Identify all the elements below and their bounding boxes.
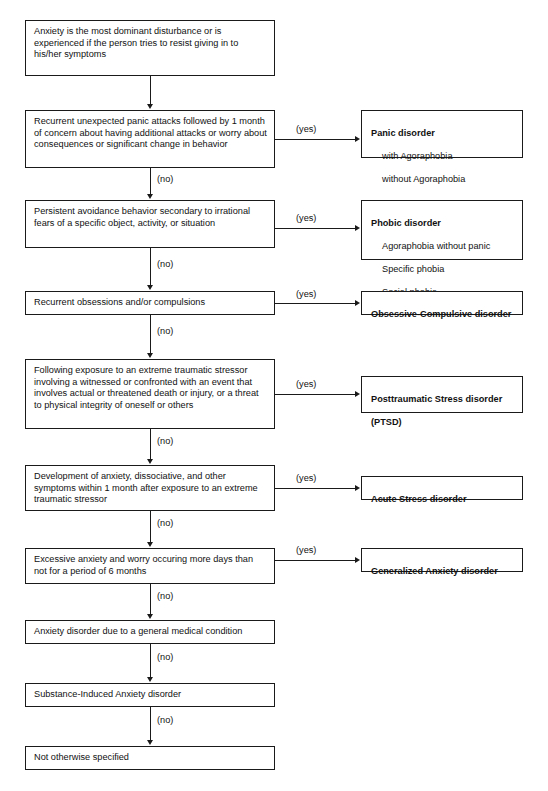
outcome-item: without Agoraphobia bbox=[371, 174, 515, 186]
edge-label-yes-d3: (yes) bbox=[296, 213, 316, 224]
decision-node-panic-attacks: Recurrent unexpected panic attacks follo… bbox=[25, 110, 275, 168]
outcome-node-generalized-anxiety: Generalized Anxiety disorder bbox=[361, 548, 523, 572]
decision-node-anxiety-dominant: Anxiety is the most dominant disturbance… bbox=[25, 20, 275, 76]
decision-node-traumatic-stressor: Following exposure to an extreme traumat… bbox=[25, 359, 275, 429]
edge-label-no-d2: (no) bbox=[157, 174, 173, 185]
edge-label-no-d9: (no) bbox=[157, 715, 173, 726]
connector-arrow-d3-phobic bbox=[355, 225, 360, 231]
outcome-node-acute-stress: Acute Stress disorder bbox=[361, 476, 523, 500]
outcome-title: Phobic disorder bbox=[371, 218, 515, 230]
connector-line-d1-d2 bbox=[150, 76, 151, 104]
outcome-node-ocd: Obsessive-Compulsive disorder bbox=[361, 291, 523, 315]
connector-arrow-d2-d3 bbox=[147, 194, 153, 199]
decision-node-excessive-worry: Excessive anxiety and worry occuring mor… bbox=[25, 548, 275, 584]
connector-line-d2-d3 bbox=[150, 168, 151, 194]
connector-line-d7-gad bbox=[275, 560, 355, 561]
connector-arrow-d3-d4 bbox=[147, 285, 153, 290]
edge-label-yes-d2: (yes) bbox=[296, 124, 316, 135]
connector-line-d4-d5 bbox=[150, 315, 151, 353]
outcome-item: with Agoraphobia bbox=[371, 151, 515, 163]
decision-node-acute-symptoms: Development of anxiety, dissociative, an… bbox=[25, 465, 275, 511]
connector-arrow-d7-gad bbox=[355, 557, 360, 563]
connector-arrow-d5-d6 bbox=[147, 459, 153, 464]
connector-line-d8-d9 bbox=[150, 644, 151, 677]
outcome-item: Agoraphobia without panic bbox=[371, 241, 515, 253]
decision-node-obsessions-compulsions: Recurrent obsessions and/or compulsions bbox=[25, 291, 275, 315]
edge-label-no-d3: (no) bbox=[157, 259, 173, 270]
connector-line-d5-d6 bbox=[150, 429, 151, 459]
outcome-title: Acute Stress disorder bbox=[371, 494, 515, 506]
connector-line-d3-phobic bbox=[275, 228, 355, 229]
edge-label-no-d8: (no) bbox=[157, 652, 173, 663]
edge-label-no-d5: (no) bbox=[157, 436, 173, 447]
outcome-title: Panic disorder bbox=[371, 128, 515, 140]
outcome-node-panic-disorder: Panic disorder with Agoraphobia without … bbox=[361, 110, 523, 158]
decision-node-substance-induced: Substance-Induced Anxiety disorder bbox=[25, 683, 275, 707]
outcome-node-phobic-disorder: Phobic disorder Agoraphobia without pani… bbox=[361, 200, 523, 260]
edge-label-yes-d4: (yes) bbox=[296, 289, 316, 300]
connector-line-d4-ocd bbox=[275, 303, 355, 304]
connector-line-d7-d8 bbox=[150, 584, 151, 614]
connector-line-d6-d7 bbox=[150, 511, 151, 542]
connector-arrow-d6-acute bbox=[355, 485, 360, 491]
connector-arrow-d9-d10 bbox=[147, 740, 153, 745]
edge-label-no-d4: (no) bbox=[157, 326, 173, 337]
connector-line-d3-d4 bbox=[150, 248, 151, 285]
connector-line-d6-acute bbox=[275, 488, 355, 489]
outcome-subtitle: (PTSD) bbox=[371, 417, 515, 429]
outcome-title: Obsessive-Compulsive disorder bbox=[371, 309, 515, 321]
edge-label-no-d6: (no) bbox=[157, 518, 173, 529]
edge-label-yes-d6: (yes) bbox=[296, 473, 316, 484]
edge-label-no-d7: (no) bbox=[157, 591, 173, 602]
edge-label-yes-d7: (yes) bbox=[296, 545, 316, 556]
decision-node-not-otherwise-specified: Not otherwise specified bbox=[25, 746, 275, 770]
connector-line-d2-panic bbox=[275, 139, 355, 140]
connector-arrow-d6-d7 bbox=[147, 542, 153, 547]
flowchart-canvas: Anxiety is the most dominant disturbance… bbox=[0, 0, 548, 791]
connector-arrow-d4-ocd bbox=[355, 300, 360, 306]
connector-line-d5-ptsd bbox=[275, 394, 355, 395]
decision-node-avoidance-behavior: Persistent avoidance behavior secondary … bbox=[25, 200, 275, 248]
connector-arrow-d4-d5 bbox=[147, 353, 153, 358]
edge-label-yes-d5: (yes) bbox=[296, 379, 316, 390]
connector-arrow-d1-d2 bbox=[147, 104, 153, 109]
connector-arrow-d2-panic bbox=[355, 136, 360, 142]
connector-line-d9-d10 bbox=[150, 707, 151, 740]
connector-arrow-d5-ptsd bbox=[355, 391, 360, 397]
connector-arrow-d8-d9 bbox=[147, 677, 153, 682]
decision-node-medical-condition: Anxiety disorder due to a general medica… bbox=[25, 620, 275, 644]
connector-arrow-d7-d8 bbox=[147, 614, 153, 619]
outcome-item: Specific phobia bbox=[371, 264, 515, 276]
outcome-title: Posttraumatic Stress disorder bbox=[371, 394, 515, 406]
outcome-title: Generalized Anxiety disorder bbox=[371, 566, 515, 578]
outcome-node-ptsd: Posttraumatic Stress disorder (PTSD) bbox=[361, 376, 523, 413]
